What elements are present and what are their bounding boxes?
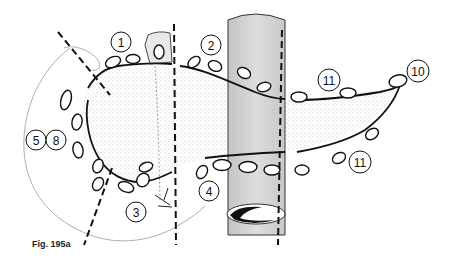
- station-label-5: 5: [26, 130, 46, 150]
- station-label-1: 1: [111, 32, 131, 52]
- svg-text:4: 4: [206, 185, 213, 199]
- station-label-8: 8: [46, 130, 66, 150]
- svg-text:3: 3: [133, 206, 140, 220]
- station-label-4: 4: [199, 181, 219, 201]
- svg-text:11: 11: [323, 74, 336, 88]
- duodenum-inner: [64, 47, 100, 71]
- svg-text:11: 11: [354, 156, 367, 170]
- station-label-11-lower: 11: [349, 151, 371, 173]
- station-label-10: 10: [407, 60, 429, 82]
- svg-text:10: 10: [411, 65, 425, 79]
- pancreas-diagram: 1 2 3 4 5 8 10 11: [0, 0, 449, 270]
- arrow-icon: [155, 188, 172, 207]
- figure-caption: Fig. 195a: [32, 239, 71, 249]
- svg-text:8: 8: [53, 134, 60, 148]
- svg-text:2: 2: [208, 39, 215, 53]
- station-label-3: 3: [126, 202, 146, 222]
- svg-text:1: 1: [118, 36, 125, 50]
- station-label-2: 2: [201, 35, 221, 55]
- svg-text:5: 5: [33, 134, 40, 148]
- station-label-11-upper: 11: [318, 69, 340, 91]
